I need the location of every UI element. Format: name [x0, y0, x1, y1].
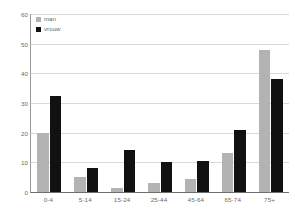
x-axis-tick-0-4: 0-4	[44, 196, 53, 203]
legend-label-vrouw: vrouw	[44, 26, 61, 33]
bar-man-0-4	[37, 133, 49, 192]
bar-vrouw-0-4	[50, 96, 62, 192]
bar-man-65-74	[222, 153, 234, 192]
bar-man-45-64	[185, 179, 197, 192]
bar-man-25-44	[148, 183, 160, 192]
x-axis-tick-labels: 0-45-1415-2425-4445-6465-7475+	[30, 196, 288, 210]
bar-vrouw-5-14	[87, 168, 99, 192]
y-axis-tick-0: 0	[2, 189, 28, 196]
y-axis-tick-50: 50	[2, 40, 28, 47]
y-axis-tick-40: 40	[2, 70, 28, 77]
y-axis-tick-20: 20	[2, 129, 28, 136]
x-axis-tick-25-44: 25-44	[151, 196, 168, 203]
bar-man-15-24	[111, 188, 123, 192]
plot-area: 0102030405060	[30, 14, 289, 193]
y-axis-tick-60: 60	[2, 11, 28, 18]
y-axis-tick-30: 30	[2, 100, 28, 107]
bar-man-5-14	[74, 177, 86, 192]
bar-man-75+	[259, 50, 271, 192]
bar-chart: 0102030405060 0-45-1415-2425-4445-6465-7…	[0, 0, 295, 219]
x-axis-tick-65-74: 65-74	[224, 196, 241, 203]
chart-legend: man vrouw	[36, 16, 61, 33]
bar-vrouw-45-64	[197, 161, 209, 192]
legend-item-man: man	[36, 16, 61, 23]
legend-swatch-icon-vrouw	[36, 27, 41, 32]
bar-vrouw-25-44	[161, 162, 173, 192]
bar-vrouw-75+	[271, 79, 283, 192]
bars-layer	[31, 14, 289, 192]
y-axis-tick-10: 10	[2, 159, 28, 166]
x-axis-tick-5-14: 5-14	[79, 196, 92, 203]
legend-swatch-icon-man	[36, 17, 41, 22]
bar-vrouw-15-24	[124, 150, 136, 192]
x-axis-tick-75+: 75+	[264, 196, 275, 203]
x-axis-tick-15-24: 15-24	[114, 196, 131, 203]
x-axis-tick-45-64: 45-64	[188, 196, 205, 203]
legend-label-man: man	[44, 16, 56, 23]
legend-item-vrouw: vrouw	[36, 26, 61, 33]
bar-vrouw-65-74	[234, 130, 246, 192]
